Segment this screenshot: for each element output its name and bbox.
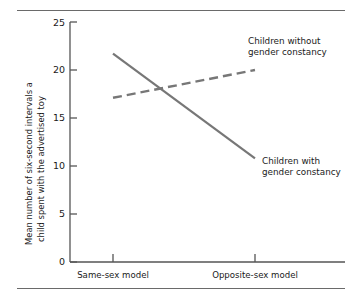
annotation-without-line-2: gender constancy	[248, 47, 327, 57]
y-tick-label-15: 15	[53, 112, 65, 123]
y-axis-title-line-1: Mean number of six-second intervals a	[24, 82, 34, 245]
y-tick-label-20: 20	[53, 64, 65, 75]
x-axis-category-labels: Same-sex model Opposite-sex model	[77, 270, 298, 280]
x-axis-ticks	[113, 254, 255, 262]
y-axis-tick-labels: 0 5 10 15 20 25	[53, 17, 65, 267]
x-label-same-sex-model: Same-sex model	[77, 270, 149, 280]
axes	[70, 22, 345, 262]
annotation-with-line-1: Children with	[262, 156, 320, 166]
y-axis-title: Mean number of six-second intervals a ch…	[24, 82, 46, 245]
y-tick-label-25: 25	[53, 17, 65, 28]
series-children-without-gender-constancy	[113, 70, 255, 98]
annotation-with-line-2: gender constancy	[262, 167, 341, 177]
x-label-opposite-sex-model: Opposite-sex model	[212, 270, 298, 280]
series-line-dashed	[113, 70, 255, 98]
annotation-children-without-gender-constancy: Children without gender constancy	[248, 36, 327, 57]
y-axis-title-line-2: child spent with the advertised toy	[36, 96, 46, 242]
y-axis-ticks	[70, 22, 77, 262]
annotation-children-with-gender-constancy: Children with gender constancy	[262, 156, 341, 177]
series-line-solid	[113, 54, 255, 159]
y-tick-label-0: 0	[59, 256, 65, 267]
line-chart: 0 5 10 15 20 25 Same-sex model Opposite-…	[0, 0, 362, 299]
annotation-without-line-1: Children without	[248, 36, 321, 46]
y-tick-label-5: 5	[59, 208, 65, 219]
y-tick-label-10: 10	[53, 160, 65, 171]
series-children-with-gender-constancy	[113, 54, 255, 159]
figure-container: 0 5 10 15 20 25 Same-sex model Opposite-…	[0, 0, 362, 299]
